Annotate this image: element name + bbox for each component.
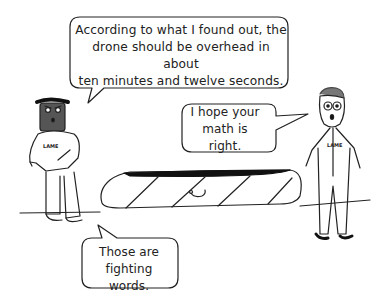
speech-line: I hope your	[186, 104, 264, 121]
shirt-label-right: LAME	[327, 142, 343, 148]
speech-line: math is right.	[186, 121, 264, 155]
speech-line: drone should be overhead in about	[74, 39, 288, 73]
speech-text-2: I hope your math is right.	[186, 104, 264, 155]
speech-text-1: According to what I found out, the drone…	[74, 22, 288, 90]
drone-casing	[101, 170, 301, 208]
speech-line: ten minutes and twelve seconds.	[74, 73, 288, 90]
left-character	[30, 100, 82, 222]
speech-text-3: Those are fighting words.	[88, 244, 170, 295]
speech-line: fighting words.	[88, 261, 170, 295]
speech-line: Those are	[88, 244, 170, 261]
shirt-label-left: LAME	[43, 143, 59, 149]
speech-line: According to what I found out, the	[74, 22, 288, 39]
right-character	[306, 88, 360, 239]
